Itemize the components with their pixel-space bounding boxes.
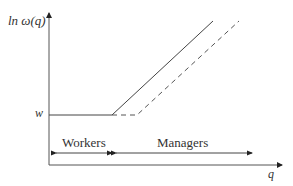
managers-label: Managers xyxy=(157,135,208,151)
dashed-wage-line xyxy=(112,21,239,115)
wage-diagram: ln ω(q) w Workers Managers q xyxy=(0,0,293,186)
w-label: w xyxy=(35,106,43,121)
workers-label: Workers xyxy=(62,135,106,151)
x-axis-label: q xyxy=(268,167,274,182)
y-axis-label: ln ω(q) xyxy=(8,13,46,29)
